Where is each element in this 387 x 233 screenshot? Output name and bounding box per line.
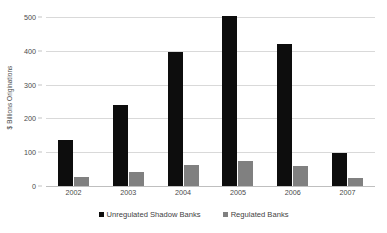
x-tick-label: 2004 <box>175 188 191 197</box>
x-tick-label: 2007 <box>340 188 356 197</box>
x-tick-label: 2006 <box>285 188 301 197</box>
bar <box>238 161 253 186</box>
bar <box>277 44 292 186</box>
legend-item[interactable]: Unregulated Shadow Banks <box>99 210 201 219</box>
gridline <box>46 186 375 187</box>
bar-group <box>168 17 199 186</box>
legend-swatch-icon <box>99 212 104 217</box>
bar <box>184 165 199 186</box>
y-tick-label: 100 <box>24 148 36 157</box>
bar <box>129 172 144 186</box>
y-tick-label: 200 <box>24 114 36 123</box>
y-tick-label: 400 <box>24 46 36 55</box>
x-tick-label: 2005 <box>230 188 246 197</box>
bar-chart: $ Billions Originations 0100200300400500… <box>0 0 387 233</box>
legend-item[interactable]: Regulated Banks <box>223 210 289 219</box>
bars-layer <box>46 17 375 186</box>
bar <box>222 16 237 186</box>
bar <box>168 52 183 186</box>
y-axis-ticks: 0100200300400500 <box>0 17 42 186</box>
bar <box>74 177 89 186</box>
y-tick-mark <box>38 50 42 51</box>
y-tick-mark <box>38 84 42 85</box>
y-tick-mark <box>38 186 42 187</box>
bar <box>293 166 308 186</box>
x-axis-ticks: 200220032004200520062007 <box>46 188 375 202</box>
y-tick-mark <box>38 152 42 153</box>
x-tick-label: 2002 <box>65 188 81 197</box>
bar-group <box>58 17 89 186</box>
y-tick-mark <box>38 17 42 18</box>
bar <box>348 178 363 186</box>
bar-group <box>113 17 144 186</box>
y-tick-label: 0 <box>32 182 36 191</box>
legend-swatch-icon <box>223 212 228 217</box>
bar-group <box>222 17 253 186</box>
y-tick-mark <box>38 118 42 119</box>
bar-group <box>277 17 308 186</box>
chart-legend: Unregulated Shadow BanksRegulated Banks <box>0 210 387 219</box>
bar <box>332 153 347 186</box>
bar-group <box>332 17 363 186</box>
bar <box>58 140 73 186</box>
x-tick-label: 2003 <box>120 188 136 197</box>
y-tick-label: 300 <box>24 80 36 89</box>
y-tick-label: 500 <box>24 13 36 22</box>
plot-area <box>46 17 375 186</box>
legend-label: Regulated Banks <box>231 210 289 219</box>
legend-label: Unregulated Shadow Banks <box>107 210 201 219</box>
bar <box>113 105 128 186</box>
